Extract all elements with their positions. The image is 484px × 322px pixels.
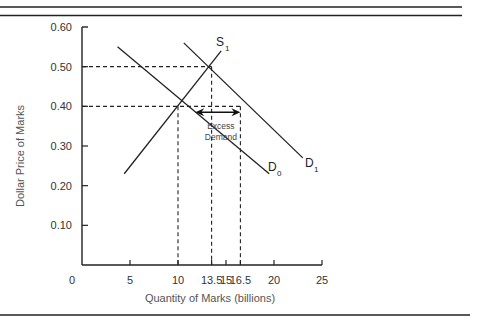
excess-demand-label-line1: Excess	[207, 121, 234, 131]
y-tick-label: 0.50	[51, 61, 72, 73]
y-axis-title: Dollar Price of Marks	[14, 104, 26, 207]
curve-label-sub-d1: 1	[314, 165, 319, 174]
x-tick-label: 25	[316, 274, 328, 286]
excess-demand-label-line2: Demand	[205, 132, 237, 142]
curve-label-d0: D	[268, 160, 277, 174]
y-tick-label: 0.30	[51, 140, 72, 152]
x-tick-label: 16.5	[230, 274, 251, 286]
x-tick-label: 20	[268, 274, 280, 286]
y-tick-label: 0.40	[51, 100, 72, 112]
curve-label-d1: D	[305, 156, 314, 170]
x-tick-label: 0	[69, 274, 75, 286]
curve-label-sub-d0: 0	[277, 169, 282, 178]
x-tick-label: 5	[127, 274, 133, 286]
y-tick-label: 0.20	[51, 180, 72, 192]
curve-d0	[118, 47, 270, 174]
y-tick-label: 0.10	[51, 219, 72, 231]
chart-canvas: 0.600.500.400.300.200.10051013.51516.520…	[0, 0, 484, 322]
curve-label-sub-s1: 1	[225, 44, 230, 53]
x-axis-title: Quantity of Marks (billions)	[145, 292, 275, 304]
x-tick-label: 10	[172, 274, 184, 286]
curve-label-s1: S	[216, 35, 224, 49]
plot-area: 0.600.500.400.300.200.10051013.51516.520…	[14, 21, 328, 304]
y-tick-label: 0.60	[51, 21, 72, 33]
curve-d1	[184, 43, 303, 158]
